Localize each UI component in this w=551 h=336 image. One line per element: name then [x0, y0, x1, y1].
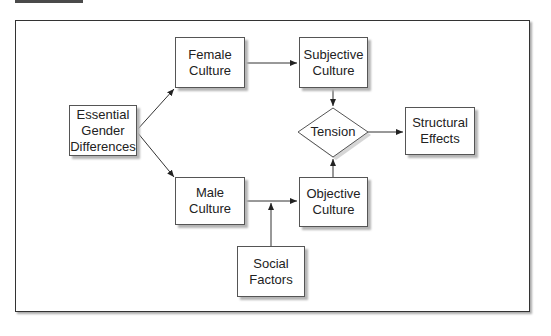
node-female-culture: Female Culture — [175, 37, 245, 88]
node-structural-effects: Structural Effects — [405, 107, 475, 155]
edge-essential-male — [137, 132, 174, 177]
node-social-factors: Social Factors — [237, 246, 305, 297]
node-objective-culture: Objective Culture — [299, 177, 368, 227]
edge-essential-female — [137, 89, 174, 130]
node-tension-label: Tension — [298, 124, 368, 139]
node-male-culture: Male Culture — [175, 177, 245, 225]
node-subjective-culture: Subjective Culture — [299, 37, 368, 88]
node-essential-gender-differences: Essential Gender Differences — [69, 105, 137, 156]
